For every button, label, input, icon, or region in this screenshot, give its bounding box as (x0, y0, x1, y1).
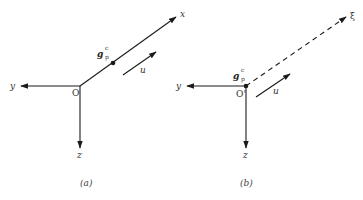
svg-text:g: g (97, 49, 103, 59)
panel-b: ξ y z O' g c p u (b) (175, 11, 355, 188)
svg-text:p: p (105, 53, 109, 61)
diagram-canvas: x y z O g c p u (a) ξ y z O' g c p u (b) (0, 0, 363, 200)
origin-label: O' (236, 89, 246, 99)
y-axis-label: y (175, 81, 182, 91)
point-marker (111, 61, 116, 66)
z-axis-label: z (76, 150, 82, 160)
point-marker (244, 84, 249, 89)
velocity-label: u (140, 65, 146, 75)
y-axis-label: y (9, 81, 16, 91)
svg-text:c: c (241, 66, 245, 73)
caption-b: (b) (240, 178, 253, 188)
x-axis-label: x (180, 9, 185, 19)
xi-axis-label: ξ (350, 11, 355, 21)
xi-axis-dashed-arrow (246, 17, 346, 86)
svg-text:c: c (105, 44, 109, 51)
point-label: g c p (233, 66, 245, 83)
velocity-label: u (273, 86, 279, 96)
x-axis-arrow (80, 17, 176, 86)
svg-text:g: g (233, 71, 239, 81)
svg-text:p: p (241, 75, 245, 83)
origin-label: O (72, 88, 79, 98)
panel-a: x y z O g c p u (a) (9, 9, 185, 188)
caption-a: (a) (80, 178, 93, 188)
point-label: g c p (97, 44, 109, 61)
z-axis-label: z (242, 150, 248, 160)
